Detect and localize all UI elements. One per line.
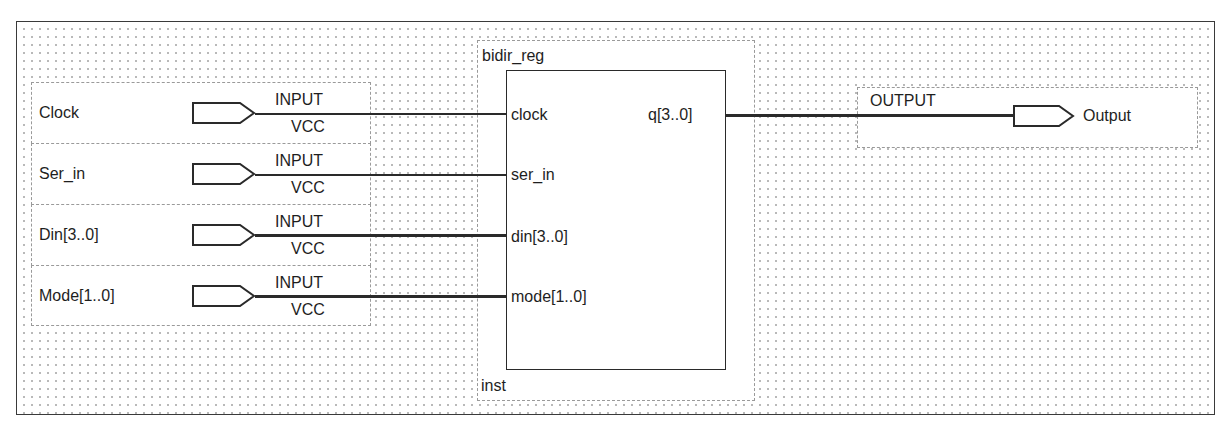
port-q[interactable]: q[3..0]: [648, 106, 692, 124]
input-pin-icon: [192, 224, 256, 246]
input-pin-name: Ser_in: [39, 165, 85, 183]
pin-type-label: INPUT: [275, 274, 323, 292]
wire-clock[interactable]: [255, 113, 506, 115]
input-pin-name: Clock: [39, 104, 79, 122]
bus-q-output-inner: [857, 114, 1014, 117]
block-instance-name: inst: [481, 377, 506, 395]
bus-mode[interactable]: [255, 295, 506, 298]
pin-default-label: VCC: [291, 179, 325, 197]
port-clock[interactable]: clock: [511, 106, 547, 124]
port-din[interactable]: din[3..0]: [511, 228, 568, 246]
port-mode[interactable]: mode[1..0]: [511, 288, 587, 306]
block-module-name: bidir_reg: [482, 47, 544, 65]
input-pin-name: Mode[1..0]: [39, 287, 115, 305]
bus-din[interactable]: [255, 234, 506, 237]
input-pin-icon: [192, 285, 256, 307]
output-pin-name: Output: [1083, 107, 1131, 125]
input-pin-name: Din[3..0]: [39, 226, 99, 244]
output-pin-type: OUTPUT: [870, 92, 936, 110]
pin-type-label: INPUT: [275, 213, 323, 231]
pin-type-label: INPUT: [275, 91, 323, 109]
pin-default-label: VCC: [291, 118, 325, 136]
input-pin-icon: [192, 102, 256, 124]
port-ser-in[interactable]: ser_in: [511, 166, 555, 184]
output-pin-icon: [1013, 105, 1075, 127]
wire-ser-in[interactable]: [255, 174, 506, 176]
pin-default-label: VCC: [291, 301, 325, 319]
input-pin-icon: [192, 163, 256, 185]
pin-default-label: VCC: [291, 240, 325, 258]
pin-type-label: INPUT: [275, 152, 323, 170]
